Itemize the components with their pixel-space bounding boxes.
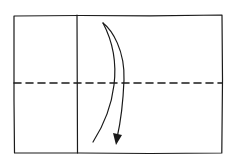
crease-line (77, 15, 78, 153)
diagram (0, 0, 233, 162)
origami-diagram (0, 0, 233, 162)
arrowhead-icon (113, 133, 122, 145)
fold-arrow (103, 23, 124, 138)
